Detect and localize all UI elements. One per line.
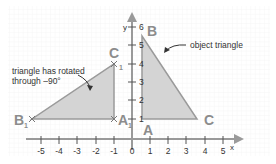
vertex-b-label: B: [147, 23, 157, 39]
svg-text:1: 1: [24, 122, 28, 129]
svg-text:through –90°: through –90°: [12, 76, 61, 86]
x-axis-label: x: [230, 143, 234, 152]
svg-text:3: 3: [184, 146, 189, 156]
svg-text:-3: -3: [73, 146, 81, 156]
svg-text:-2: -2: [92, 146, 100, 156]
vertex-a-label: A: [143, 122, 153, 138]
svg-text:2: 2: [166, 146, 171, 156]
svg-text:5: 5: [221, 146, 226, 156]
svg-text:3: 3: [139, 77, 144, 87]
vertex-b1-label: B: [14, 112, 24, 128]
vertex-c-label: C: [204, 112, 214, 128]
svg-text:1: 1: [128, 122, 132, 129]
diagram-canvas: -5 -4 -3 -2 -1 0 1 2 3 4 5 x 1 2 3 4 5 6…: [0, 0, 276, 164]
svg-text:2: 2: [139, 95, 144, 105]
svg-text:4: 4: [203, 146, 208, 156]
svg-text:-4: -4: [55, 146, 63, 156]
svg-text:0: 0: [130, 146, 135, 156]
svg-text:6: 6: [139, 22, 144, 32]
vertex-a1-label: A: [118, 112, 128, 128]
svg-text:object triangle: object triangle: [190, 40, 243, 50]
svg-text:1: 1: [119, 64, 123, 71]
svg-text:4: 4: [139, 59, 144, 69]
rotation-diagram: -5 -4 -3 -2 -1 0 1 2 3 4 5 x 1 2 3 4 5 6…: [0, 0, 276, 164]
vertex-c1-label: C: [109, 45, 119, 61]
svg-text:5: 5: [139, 40, 144, 50]
svg-text:-1: -1: [110, 146, 118, 156]
svg-text:1: 1: [148, 146, 153, 156]
svg-text:triangle has rotated: triangle has rotated: [12, 66, 85, 76]
svg-text:-5: -5: [37, 146, 45, 156]
y-axis-label: y: [123, 23, 127, 32]
